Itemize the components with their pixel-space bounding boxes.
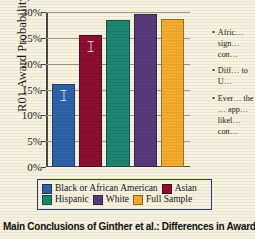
- y-axis-tick-label: 30%: [22, 6, 46, 18]
- bullet-dot-icon: •: [212, 28, 215, 60]
- legend-item: White: [93, 195, 129, 205]
- bullet-item: •Ever… the … app… likel… con…: [212, 94, 255, 137]
- bullet-dot-icon: •: [212, 66, 215, 88]
- legend-swatch-icon: [42, 184, 52, 194]
- bar-full-sample: [161, 19, 184, 167]
- bar-slot: [161, 12, 184, 167]
- bar-series: [46, 12, 190, 167]
- legend-item: Black or African American: [42, 184, 158, 194]
- bullet-text: Ever… the … app… likel… con…: [218, 94, 255, 137]
- bar-slot: [134, 12, 157, 167]
- legend-label: Full Sample: [146, 195, 192, 205]
- legend-label: Black or African American: [55, 184, 158, 194]
- legend-label: Hispanic: [55, 195, 89, 205]
- y-axis-tick-label: 10%: [22, 109, 46, 121]
- bullet-dot-icon: •: [212, 94, 215, 137]
- legend-item: Hispanic: [42, 195, 89, 205]
- bar-hispanic: [106, 20, 129, 167]
- chart-legend: Black or African AmericanAsianHispanicWh…: [37, 179, 212, 210]
- slide-caption: Main Conclusions of Ginther et al.: Diff…: [3, 221, 255, 232]
- legend-label: Asian: [175, 184, 197, 194]
- legend-row: Black or African AmericanAsian: [42, 184, 207, 194]
- y-axis-tick-label: 5%: [27, 135, 46, 147]
- legend-item: Full Sample: [133, 195, 192, 205]
- bar-slot: [79, 12, 102, 167]
- legend-swatch-icon: [42, 195, 52, 205]
- error-bar: [63, 90, 64, 101]
- y-axis-tick-label: 25%: [22, 32, 46, 44]
- bullet-item: •Diff… to U…: [212, 66, 255, 88]
- conclusions-bullet-list: •Afric… sign… con…•Diff… to U…•Ever… the…: [212, 28, 255, 143]
- y-axis-tick-label: 20%: [22, 58, 46, 70]
- y-axis-tick-label: 15%: [22, 84, 46, 96]
- bullet-item: •Afric… sign… con…: [212, 28, 255, 60]
- bar-black-or-african-american: [52, 84, 75, 167]
- legend-swatch-icon: [133, 195, 143, 205]
- bar-slot: [52, 12, 75, 167]
- legend-item: Asian: [162, 184, 197, 194]
- bullet-text: Diff… to U…: [218, 66, 255, 88]
- y-axis-tick-label: 0%: [27, 161, 46, 173]
- legend-row: HispanicWhiteFull Sample: [42, 195, 207, 205]
- legend-label: White: [106, 195, 129, 205]
- plot-area: 0%5%10%15%20%25%30%: [46, 12, 190, 167]
- error-bar: [90, 41, 91, 52]
- legend-swatch-icon: [93, 195, 103, 205]
- bullet-text: Afric… sign… con…: [218, 28, 255, 60]
- bar-white: [134, 14, 157, 167]
- bar-slot: [106, 12, 129, 167]
- bar-chart: R01 Award Probability 0%5%10%15%20%25%30…: [0, 0, 190, 176]
- legend-swatch-icon: [162, 184, 172, 194]
- slide-canvas: R01 Award Probability 0%5%10%15%20%25%30…: [0, 0, 255, 239]
- bar-asian: [79, 35, 102, 167]
